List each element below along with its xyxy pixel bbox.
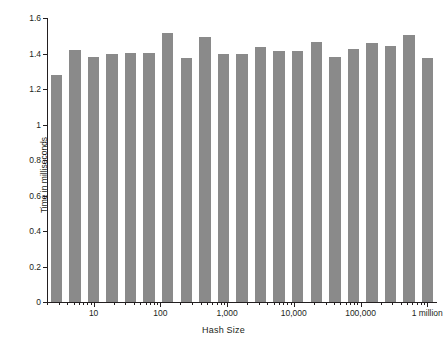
x-minor-tick-mark [207, 302, 208, 305]
x-minor-tick-mark [180, 302, 181, 305]
y-tick-label: 1 [36, 120, 41, 129]
bar [181, 58, 193, 302]
x-tick-label: 100,000 [345, 309, 376, 318]
y-tick-label: 1.6 [29, 14, 41, 23]
x-minor-tick-mark [283, 302, 284, 305]
y-tick-mark [43, 89, 48, 90]
bar [366, 43, 378, 302]
x-major-tick-mark [94, 302, 95, 307]
x-tick-label: 10,000 [281, 309, 307, 318]
x-minor-tick-mark [212, 302, 213, 305]
x-minor-tick-mark [87, 302, 88, 305]
x-major-tick-mark [427, 302, 428, 307]
y-tick-label: 0.4 [29, 227, 41, 236]
x-minor-tick-mark [287, 302, 288, 305]
x-minor-tick-mark [67, 302, 68, 305]
x-minor-tick-mark [217, 302, 218, 305]
x-minor-tick-mark [421, 302, 422, 305]
x-minor-tick-mark [291, 302, 292, 305]
bar [255, 47, 267, 302]
bar [348, 49, 360, 302]
y-tick-mark [43, 125, 48, 126]
x-axis-title: Hash Size [0, 325, 447, 335]
x-major-tick-mark [160, 302, 161, 307]
x-minor-tick-mark [274, 302, 275, 305]
x-minor-tick-mark [346, 302, 347, 305]
x-minor-tick-mark [417, 302, 418, 305]
y-tick-mark [43, 267, 48, 268]
x-minor-tick-mark [381, 302, 382, 305]
y-tick-label: 0 [36, 298, 41, 307]
bar [143, 53, 155, 302]
y-tick-mark [43, 231, 48, 232]
bar [422, 58, 434, 302]
bar [88, 57, 100, 302]
x-minor-tick-mark [424, 302, 425, 305]
x-minor-tick-mark [350, 302, 351, 305]
x-major-tick-mark [227, 302, 228, 307]
bar [329, 57, 341, 302]
bar [403, 35, 415, 302]
x-minor-tick-mark [47, 302, 48, 305]
x-minor-tick-mark [259, 302, 260, 305]
y-tick-mark [43, 18, 48, 19]
x-minor-tick-mark [91, 302, 92, 305]
x-minor-tick-mark [134, 302, 135, 305]
x-minor-tick-mark [79, 302, 80, 305]
x-minor-tick-mark [247, 302, 248, 305]
x-minor-tick-mark [201, 302, 202, 305]
x-minor-tick-mark [224, 302, 225, 305]
bar [199, 37, 211, 302]
x-minor-tick-mark [59, 302, 60, 305]
x-tick-label: 1 million [412, 309, 443, 318]
bar [236, 54, 248, 302]
x-minor-tick-mark [154, 302, 155, 305]
bar [273, 51, 285, 302]
y-tick-label: 0.2 [29, 262, 41, 271]
x-minor-tick-mark [125, 302, 126, 305]
plot-area [47, 18, 437, 302]
x-minor-tick-mark [150, 302, 151, 305]
x-minor-tick-mark [392, 302, 393, 305]
bar [292, 51, 304, 302]
x-minor-tick-mark [340, 302, 341, 305]
x-minor-tick-mark [221, 302, 222, 305]
bar-chart: 00.20.40.60.811.21.41.6 101001,00010,000… [0, 0, 447, 349]
x-tick-label: 10 [89, 309, 98, 318]
y-axis-title: Time in milliseconds [39, 136, 49, 212]
x-minor-tick-mark [146, 302, 147, 305]
x-minor-tick-mark [74, 302, 75, 305]
x-minor-tick-mark [314, 302, 315, 305]
bar [69, 50, 81, 302]
x-major-tick-mark [361, 302, 362, 307]
bar [125, 53, 137, 302]
x-minor-tick-mark [140, 302, 141, 305]
x-minor-tick-mark [157, 302, 158, 305]
x-minor-tick-mark [192, 302, 193, 305]
bar [218, 54, 230, 303]
x-minor-tick-mark [326, 302, 327, 305]
x-minor-tick-mark [407, 302, 408, 305]
bar [385, 46, 397, 302]
y-tick-label: 1.2 [29, 85, 41, 94]
bar [162, 33, 174, 302]
x-minor-tick-mark [279, 302, 280, 305]
x-minor-tick-mark [357, 302, 358, 305]
bar [51, 75, 63, 302]
x-major-tick-mark [294, 302, 295, 307]
bar [311, 42, 323, 302]
x-minor-tick-mark [334, 302, 335, 305]
x-minor-tick-mark [412, 302, 413, 305]
y-tick-mark [43, 54, 48, 55]
bar [106, 54, 118, 302]
x-minor-tick-mark [401, 302, 402, 305]
x-minor-tick-mark [114, 302, 115, 305]
y-tick-label: 1.4 [29, 49, 41, 58]
x-minor-tick-mark [267, 302, 268, 305]
x-minor-tick-mark [354, 302, 355, 305]
x-minor-tick-mark [83, 302, 84, 305]
x-tick-label: 1,000 [216, 309, 237, 318]
x-tick-label: 100 [153, 309, 167, 318]
